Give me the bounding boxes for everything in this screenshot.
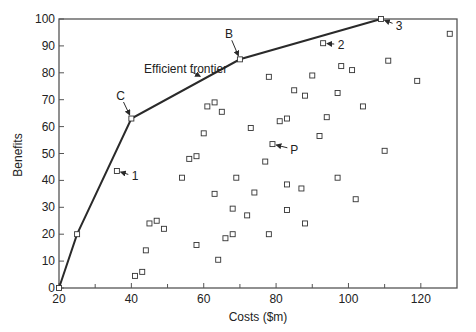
y-tick-label: 20 <box>42 227 56 241</box>
frontier-polyline <box>59 19 381 288</box>
x-tick-label: 60 <box>197 292 211 306</box>
data-point-square <box>284 182 289 187</box>
data-point-square <box>194 242 199 247</box>
x-axis-title: Costs ($m) <box>229 310 288 324</box>
data-point-square <box>353 197 358 202</box>
data-point-square <box>303 221 308 226</box>
data-point-square <box>57 286 62 291</box>
data-point-square <box>75 232 80 237</box>
axes: 204060801001200102030405060708090100 <box>35 12 457 306</box>
annotation-arrow <box>121 172 129 174</box>
data-point-square <box>303 93 308 98</box>
y-tick-label: 80 <box>42 66 56 80</box>
annotation-label: Efficient frontier <box>144 62 227 76</box>
chart-container: 204060801001200102030405060708090100 Eff… <box>0 0 476 332</box>
data-point-square <box>143 248 148 253</box>
annotation-arrow <box>327 44 334 45</box>
y-tick-label: 30 <box>42 200 56 214</box>
y-tick-label: 100 <box>35 12 55 26</box>
data-point-square <box>360 104 365 109</box>
data-point-square <box>216 257 221 262</box>
data-point-square <box>205 104 210 109</box>
data-point-square <box>161 226 166 231</box>
data-point-square <box>335 175 340 180</box>
plot-frame <box>59 19 457 288</box>
y-tick-label: 40 <box>42 173 56 187</box>
annotation-arrow <box>232 40 239 55</box>
data-point-square <box>415 78 420 83</box>
annotation-label: 2 <box>338 38 345 52</box>
data-point-square <box>234 175 239 180</box>
y-tick-label: 60 <box>42 120 56 134</box>
data-point-square <box>335 90 340 95</box>
data-point-square <box>223 236 228 241</box>
data-point-square <box>180 175 185 180</box>
data-point-square <box>270 142 275 147</box>
data-point-square <box>263 159 268 164</box>
y-axis-title: Benefits <box>11 133 25 176</box>
y-tick-label: 70 <box>42 93 56 107</box>
data-point-square <box>132 273 137 278</box>
y-tick-label: 90 <box>42 39 56 53</box>
data-point-square <box>266 74 271 79</box>
data-point-square <box>219 109 224 114</box>
data-point-square <box>147 221 152 226</box>
data-point-square <box>230 206 235 211</box>
data-point-square <box>292 88 297 93</box>
annotation-label: 1 <box>132 169 139 183</box>
annotation-arrow <box>385 20 393 23</box>
y-tick-label: 50 <box>42 147 56 161</box>
data-point-square <box>248 125 253 130</box>
data-point-square <box>339 64 344 69</box>
data-point-square <box>379 17 384 22</box>
efficient-frontier-line <box>59 19 381 288</box>
data-point-square <box>154 218 159 223</box>
annotation-arrow <box>276 145 287 148</box>
data-point-square <box>212 191 217 196</box>
data-point-square <box>266 232 271 237</box>
data-point-square <box>277 119 282 124</box>
data-point-square <box>284 116 289 121</box>
data-point-square <box>386 58 391 63</box>
data-point-square <box>245 213 250 218</box>
scatter-plot: 204060801001200102030405060708090100 Eff… <box>0 0 476 332</box>
data-point-square <box>212 100 217 105</box>
data-point-square <box>324 115 329 120</box>
annotation-label: C <box>116 89 125 103</box>
x-tick-label: 80 <box>269 292 283 306</box>
x-tick-label: 40 <box>125 292 139 306</box>
data-point-square <box>321 41 326 46</box>
x-tick-label: 120 <box>411 292 431 306</box>
data-point-square <box>350 68 355 73</box>
data-point-square <box>230 232 235 237</box>
x-tick-label: 100 <box>338 292 358 306</box>
annotations: Efficient frontierCB321P <box>116 19 403 184</box>
annotation-arrow <box>124 102 130 115</box>
data-point-square <box>201 131 206 136</box>
data-point-square <box>252 190 257 195</box>
data-point-square <box>140 269 145 274</box>
annotation-label: P <box>290 143 298 157</box>
data-point-square <box>447 31 452 36</box>
data-point-square <box>382 148 387 153</box>
annotation-label: 3 <box>396 19 403 33</box>
data-point-square <box>237 57 242 62</box>
data-point-square <box>187 156 192 161</box>
data-point-square <box>299 186 304 191</box>
data-point-square <box>284 207 289 212</box>
y-tick-label: 10 <box>42 254 56 268</box>
data-point-square <box>194 154 199 159</box>
data-point-square <box>317 134 322 139</box>
data-point-square <box>310 73 315 78</box>
y-tick-label: 0 <box>48 281 55 295</box>
data-point-square <box>114 168 119 173</box>
annotation-label: B <box>225 27 233 41</box>
data-point-square <box>129 116 134 121</box>
